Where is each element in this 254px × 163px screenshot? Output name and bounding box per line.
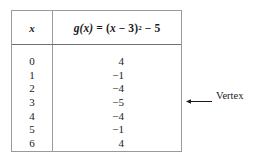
table-body: 041−12−43−54−45−164: [12, 45, 181, 151]
vertex-label: Vertex: [216, 91, 243, 102]
cell-x: 6: [12, 137, 52, 151]
cell-x: 5: [12, 123, 52, 137]
table-row: 04: [12, 55, 181, 69]
table-row: 2−4: [12, 82, 181, 96]
cell-gx: 4: [53, 55, 124, 69]
header-of-x: (x): [80, 22, 94, 34]
table-row: 4−4: [12, 110, 181, 124]
cell-gx: 4: [53, 137, 124, 151]
header-equals: =: [96, 22, 103, 34]
left-arrow-icon: [186, 92, 212, 101]
vertex-annotation: Vertex: [186, 89, 243, 104]
function-value-table: x g(x) = (x − 3)2 − 5 041−12−43−54−45−16…: [11, 10, 182, 152]
cell-x: 3: [12, 96, 52, 110]
cell-gx: −5: [53, 96, 124, 110]
cell-x: 4: [12, 110, 52, 124]
table-row: 3−5: [12, 96, 181, 110]
header-minus-2: −: [145, 22, 152, 34]
column-header-gx: g(x) = (x − 3)2 − 5: [53, 11, 181, 44]
cell-gx: −1: [53, 123, 124, 137]
table-row: 64: [12, 137, 181, 151]
cell-x: 1: [12, 69, 52, 83]
table-header-row: x g(x) = (x − 3)2 − 5: [12, 11, 181, 44]
header-var-x: x: [110, 22, 116, 34]
table-row: 5−1: [12, 123, 181, 137]
cell-gx: −1: [53, 69, 124, 83]
cell-gx: −4: [53, 110, 124, 124]
cell-x: 0: [12, 55, 52, 69]
header-minus-1: −: [119, 22, 126, 34]
table-row: 1−1: [12, 69, 181, 83]
cell-gx: −4: [53, 82, 124, 96]
header-five: 5: [154, 22, 160, 34]
cell-x: 2: [12, 82, 52, 96]
column-header-x: x: [12, 11, 52, 44]
